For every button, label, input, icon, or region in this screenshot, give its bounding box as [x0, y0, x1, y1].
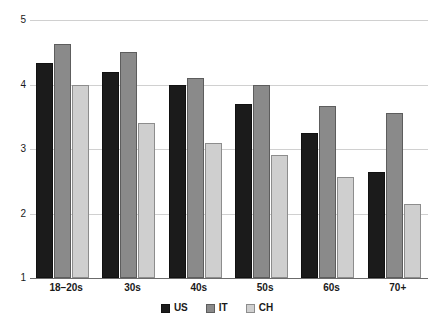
legend-label: US: [174, 303, 188, 313]
bar-ch-4: [337, 177, 354, 278]
legend-swatch-icon: [161, 304, 170, 313]
bar-us-5: [368, 172, 385, 278]
bar-chart: 12345 18–20s30s40s50s60s70+ USITCH: [0, 0, 434, 329]
bar-us-3: [235, 104, 252, 278]
bar-group: [30, 20, 96, 278]
legend-item-us[interactable]: US: [161, 303, 188, 313]
bar-it-0: [54, 44, 71, 278]
bar-groups: [30, 20, 428, 278]
x-tick-label: 18–20s: [30, 281, 96, 297]
bar-it-5: [386, 113, 403, 278]
x-axis-line: [30, 278, 428, 279]
y-tick-label: 4: [4, 80, 26, 90]
bar-it-4: [319, 106, 336, 278]
y-tick-label: 3: [4, 144, 26, 154]
chart-legend: USITCH: [0, 303, 434, 313]
bar-us-4: [301, 133, 318, 278]
x-tick-label: 30s: [96, 281, 162, 297]
legend-item-ch[interactable]: CH: [246, 303, 273, 313]
bar-it-1: [120, 52, 137, 278]
y-axis: 12345: [0, 20, 26, 278]
bar-group: [96, 20, 162, 278]
x-tick-label: 60s: [295, 281, 361, 297]
x-tick-label: 40s: [163, 281, 229, 297]
bar-group: [163, 20, 229, 278]
bar-us-0: [36, 63, 53, 278]
bar-ch-0: [72, 85, 89, 279]
legend-item-it[interactable]: IT: [206, 303, 228, 313]
x-tick-label: 50s: [229, 281, 295, 297]
bar-it-2: [187, 78, 204, 278]
bar-it-3: [253, 85, 270, 279]
y-tick-label: 5: [4, 15, 26, 25]
y-tick-label: 1: [4, 273, 26, 283]
bar-us-1: [102, 72, 119, 278]
bar-group: [362, 20, 428, 278]
bar-ch-3: [271, 155, 288, 278]
bar-group: [229, 20, 295, 278]
bar-ch-2: [205, 143, 222, 278]
legend-label: IT: [219, 303, 228, 313]
y-tick-label: 2: [4, 209, 26, 219]
bar-ch-1: [138, 123, 155, 278]
bar-ch-5: [404, 204, 421, 278]
bar-us-2: [169, 85, 186, 279]
x-axis-labels: 18–20s30s40s50s60s70+: [30, 281, 428, 297]
legend-label: CH: [259, 303, 273, 313]
bar-group: [295, 20, 361, 278]
legend-swatch-icon: [206, 304, 215, 313]
legend-swatch-icon: [246, 304, 255, 313]
x-tick-label: 70+: [362, 281, 428, 297]
